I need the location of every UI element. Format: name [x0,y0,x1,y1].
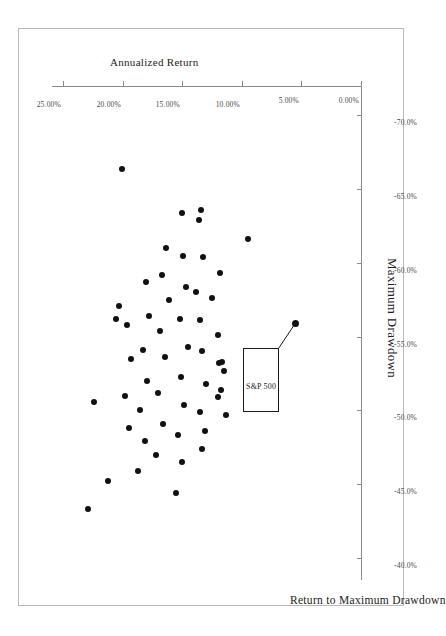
callout-box[interactable] [243,348,279,412]
rotated-figure-canvas: Maximum Drawdown Annualized Return Retur… [10,20,410,616]
callout-leader-line [10,20,410,616]
callout-label: S&P 500 [246,382,276,391]
